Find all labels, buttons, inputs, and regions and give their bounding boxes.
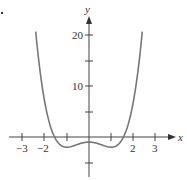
x-axis-arrow-icon	[168, 134, 176, 140]
y-tick-label: 20	[72, 29, 84, 41]
x-tick-label: −2	[37, 142, 49, 154]
corner-mark	[1, 12, 3, 14]
y-axis-label: y	[84, 3, 90, 15]
y-tick-label: 10	[72, 80, 84, 92]
x-tick-label: 2	[130, 142, 136, 154]
x-tick-label: −3	[16, 142, 28, 154]
x-axis-label: x	[177, 131, 183, 143]
x-tick-label: 3	[152, 142, 158, 154]
chart-canvas: x y −3 −2 2 3 20 10	[0, 0, 187, 180]
y-axis-arrow-icon	[86, 16, 92, 24]
